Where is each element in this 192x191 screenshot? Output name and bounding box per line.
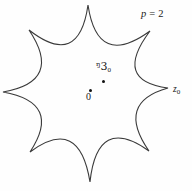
origin-dot [89, 89, 92, 92]
star-region-diagram [0, 0, 192, 191]
boundary-point-subscript: 0 [177, 88, 181, 96]
parameter-variable: p [141, 8, 146, 19]
boundary-point-label: z0 [173, 85, 180, 96]
origin-label: 0 [86, 92, 91, 102]
figure-background [0, 0, 192, 191]
interior-point-label: ᵑ30 [96, 61, 111, 74]
interior-point-dot [102, 80, 105, 83]
parameter-equals: = [149, 8, 155, 19]
fraktur-p-glyph: ᵑ3 [96, 60, 107, 73]
origin-label-text: 0 [86, 91, 91, 102]
figure-container: p = 2 z0 ᵑ30 0 [0, 0, 192, 191]
parameter-label: p = 2 [141, 9, 164, 20]
interior-point-subscript: 0 [107, 66, 111, 74]
parameter-value: 2 [158, 8, 163, 19]
